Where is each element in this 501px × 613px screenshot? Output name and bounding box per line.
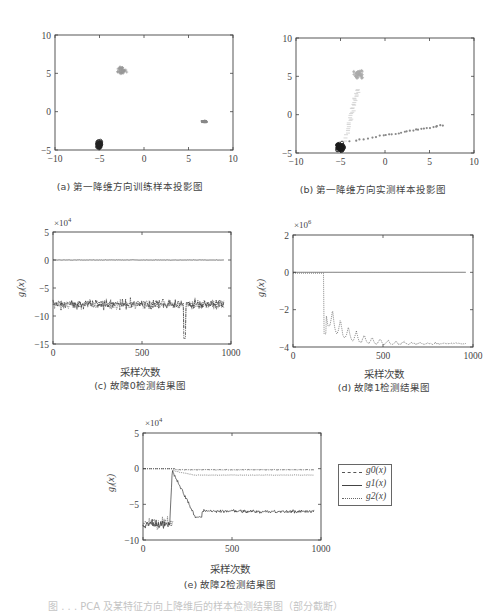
caption-d: (d) 故障1检测结果图 — [324, 380, 444, 394]
chart-c: 05001000−15−10−505×104gi(x) — [0, 195, 250, 365]
legend-label-g1: g1(x) — [366, 478, 386, 488]
svg-text:0: 0 — [44, 256, 49, 266]
svg-text:5: 5 — [46, 69, 51, 79]
caption-c: (c) 故障0检测结果图 — [80, 378, 200, 392]
svg-text:−10: −10 — [289, 157, 304, 167]
line-plot-e: 05001000−10−505×104gi(x) — [100, 395, 350, 555]
svg-text:−10: −10 — [34, 312, 49, 322]
svg-text:10: 10 — [283, 34, 293, 44]
svg-text:×104: ×104 — [145, 416, 163, 428]
svg-text:5: 5 — [134, 429, 139, 439]
svg-text:10: 10 — [469, 157, 479, 167]
svg-text:5: 5 — [44, 228, 49, 238]
svg-text:−5: −5 — [335, 157, 345, 167]
svg-text:500: 500 — [376, 351, 391, 361]
svg-text:0: 0 — [287, 110, 292, 120]
scatter-plot-a: −10−50510−50510 — [0, 0, 250, 170]
svg-text:−15: −15 — [34, 340, 49, 350]
svg-text:×104: ×104 — [54, 216, 72, 228]
svg-text:500: 500 — [135, 348, 150, 358]
svg-text:5: 5 — [287, 72, 292, 82]
svg-text:500: 500 — [225, 544, 240, 554]
legend-label-g2: g2(x) — [366, 491, 386, 501]
solid-line-icon — [342, 485, 362, 486]
svg-text:5: 5 — [427, 157, 432, 167]
svg-text:−5: −5 — [39, 284, 49, 294]
svg-text:2: 2 — [284, 231, 289, 241]
svg-text:0: 0 — [383, 157, 388, 167]
svg-text:−10: −10 — [124, 536, 139, 546]
svg-text:×106: ×106 — [294, 218, 312, 230]
legend-label-g0: g0(x) — [366, 465, 386, 475]
svg-text:−5: −5 — [282, 149, 292, 159]
dash-dot-line-icon — [342, 472, 362, 473]
chart-e: 05001000−10−505×104gi(x) — [100, 395, 350, 555]
svg-text:gi(x): gi(x) — [105, 473, 118, 492]
xlabel-e: 采样次数 — [190, 561, 270, 576]
xlabel-d: 采样次数 — [344, 366, 424, 381]
legend-item-g1: g1(x) — [342, 479, 390, 491]
scatter-plot-b: −10−50510−50510 — [250, 0, 501, 170]
svg-text:1000: 1000 — [464, 351, 483, 361]
svg-text:−2: −2 — [279, 305, 289, 315]
caption-a: (a) 第一降维方向训练样本投影图 — [50, 179, 210, 193]
figure-caption-text: 图 . . . PCA 及某特征方向上降维后的样本检测结果图（部分截断） — [48, 601, 343, 612]
figure-caption-truncated: 图 . . . PCA 及某特征方向上降维后的样本检测结果图（部分截断） — [48, 598, 343, 613]
legend-item-g0: g0(x) — [342, 466, 390, 478]
chart-d: 05001000−4−202×106gi(x) — [250, 195, 501, 365]
svg-text:10: 10 — [228, 154, 238, 164]
svg-text:1000: 1000 — [222, 348, 241, 358]
svg-text:gi(x): gi(x) — [15, 278, 28, 297]
svg-text:gi(x): gi(x) — [255, 278, 268, 297]
svg-text:−5: −5 — [129, 500, 139, 510]
legend-item-g2: g2(x) — [342, 492, 390, 504]
svg-text:0: 0 — [141, 544, 146, 554]
svg-text:5: 5 — [186, 154, 191, 164]
line-plot-c: 05001000−15−10−505×104gi(x) — [0, 195, 250, 365]
svg-text:0: 0 — [142, 154, 147, 164]
svg-text:−5: −5 — [41, 146, 51, 156]
svg-text:0: 0 — [134, 464, 139, 474]
svg-text:−5: −5 — [94, 154, 104, 164]
svg-text:0: 0 — [284, 268, 289, 278]
svg-text:0: 0 — [46, 107, 51, 117]
caption-e: (e) 故障2检测结果图 — [170, 577, 290, 591]
dotted-line-icon — [342, 498, 362, 499]
svg-text:0: 0 — [51, 348, 56, 358]
svg-text:0: 0 — [291, 351, 296, 361]
chart-b: −10−50510−50510 — [250, 0, 501, 170]
caption-b: (b) 第一降维方向实测样本投影图 — [293, 182, 453, 196]
svg-text:−10: −10 — [48, 154, 63, 164]
svg-text:1000: 1000 — [312, 544, 331, 554]
chart-a: −10−50510−50510 — [0, 0, 250, 170]
legend-e: g0(x) g1(x) g2(x) — [338, 464, 392, 506]
svg-text:10: 10 — [42, 31, 52, 41]
line-plot-d: 05001000−4−202×106gi(x) — [250, 195, 501, 365]
xlabel-c: 采样次数 — [100, 364, 180, 379]
svg-text:−4: −4 — [279, 343, 289, 353]
